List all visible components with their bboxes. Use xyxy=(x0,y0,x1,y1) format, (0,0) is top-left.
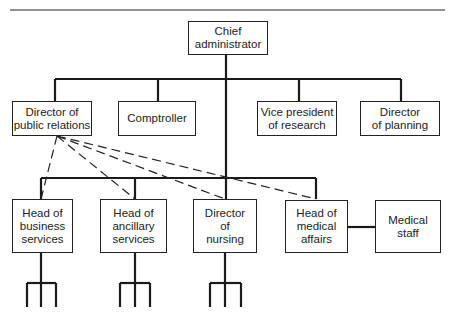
node-chief-administrator: Chief administrator xyxy=(188,21,268,55)
node-head-medical-affairs: Head of medical affairs xyxy=(285,200,348,253)
node-vice-president-research: Vice president of research xyxy=(257,101,337,136)
node-comptroller: Comptroller xyxy=(118,101,196,136)
node-head-business-services: Head of business services xyxy=(12,199,73,253)
node-medical-staff: Medical staff xyxy=(375,200,441,253)
node-director-public-relations: Director of public relations xyxy=(12,101,92,136)
node-director-planning: Director of planning xyxy=(360,101,440,136)
node-director-nursing: Director of nursing xyxy=(193,199,257,253)
node-head-ancillary-services: Head of ancillary services xyxy=(100,199,167,253)
